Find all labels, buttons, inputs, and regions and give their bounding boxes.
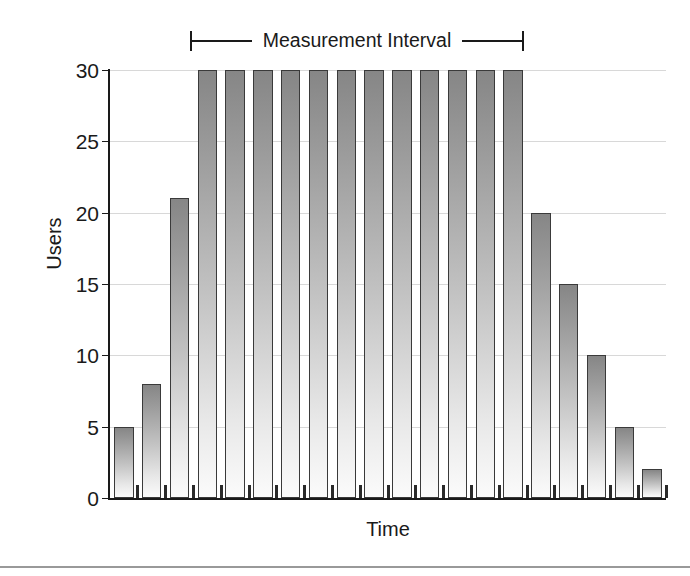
x-tick-mark bbox=[526, 485, 529, 498]
plot-area: 051015202530 bbox=[110, 70, 666, 498]
y-tick-mark bbox=[102, 427, 110, 428]
bars-layer bbox=[110, 70, 666, 498]
bar bbox=[253, 70, 272, 498]
bar bbox=[587, 355, 606, 498]
bar bbox=[503, 70, 522, 498]
x-tick-mark bbox=[303, 485, 306, 498]
interval-rule-left bbox=[192, 40, 252, 42]
bar bbox=[337, 70, 356, 498]
x-tick-mark bbox=[387, 485, 390, 498]
y-tick-label: 15 bbox=[76, 274, 99, 295]
x-tick-mark bbox=[498, 485, 501, 498]
x-tick-mark bbox=[331, 485, 334, 498]
x-tick-mark bbox=[442, 485, 445, 498]
bar bbox=[615, 427, 634, 498]
bar bbox=[364, 70, 383, 498]
x-tick-mark bbox=[192, 485, 195, 498]
y-tick-label: 25 bbox=[76, 131, 99, 152]
bar bbox=[198, 70, 217, 498]
x-tick-mark bbox=[220, 485, 223, 498]
y-tick-mark bbox=[102, 213, 110, 214]
y-tick-mark bbox=[102, 284, 110, 285]
y-tick-label: 30 bbox=[76, 60, 99, 81]
x-tick-mark bbox=[359, 485, 362, 498]
bar bbox=[281, 70, 300, 498]
bar bbox=[448, 70, 467, 498]
x-tick-mark bbox=[414, 485, 417, 498]
measurement-interval-annotation: Measurement Interval bbox=[190, 24, 524, 58]
x-tick-mark bbox=[136, 485, 139, 498]
y-tick-label: 20 bbox=[76, 202, 99, 223]
y-tick-mark bbox=[102, 141, 110, 142]
bar bbox=[142, 384, 161, 498]
x-tick-mark bbox=[275, 485, 278, 498]
x-tick-mark bbox=[470, 485, 473, 498]
footer-rule bbox=[0, 566, 690, 568]
bar bbox=[392, 70, 411, 498]
bar bbox=[170, 198, 189, 498]
y-tick-mark bbox=[102, 70, 110, 71]
y-tick-label: 0 bbox=[87, 488, 99, 509]
interval-rule-right bbox=[462, 40, 522, 42]
y-axis-title: Users bbox=[43, 184, 66, 304]
bracket-right-icon bbox=[522, 31, 524, 51]
y-tick-label: 5 bbox=[87, 416, 99, 437]
bar bbox=[309, 70, 328, 498]
bar bbox=[420, 70, 439, 498]
x-tick-mark bbox=[553, 485, 556, 498]
y-tick-mark bbox=[102, 498, 110, 499]
x-tick-mark bbox=[665, 485, 668, 498]
bar-chart-figure: Measurement Interval Users 051015202530 … bbox=[0, 0, 690, 576]
bar bbox=[114, 427, 133, 498]
x-tick-mark bbox=[581, 485, 584, 498]
bar bbox=[476, 70, 495, 498]
x-tick-mark bbox=[609, 485, 612, 498]
x-tick-mark bbox=[164, 485, 167, 498]
bar bbox=[225, 70, 244, 498]
x-axis-line bbox=[108, 498, 666, 500]
x-tick-mark bbox=[248, 485, 251, 498]
measurement-interval-label: Measurement Interval bbox=[252, 31, 463, 51]
y-tick-label: 10 bbox=[76, 345, 99, 366]
bar bbox=[642, 469, 661, 498]
x-axis-title: Time bbox=[110, 518, 666, 541]
x-tick-mark bbox=[637, 485, 640, 498]
y-tick-mark bbox=[102, 355, 110, 356]
bar bbox=[531, 213, 550, 498]
bar bbox=[559, 284, 578, 498]
